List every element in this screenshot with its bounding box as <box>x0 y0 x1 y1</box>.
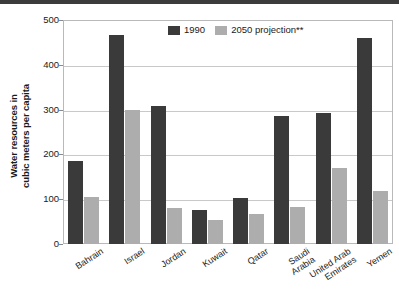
bar-series-2050 <box>332 168 347 244</box>
y-tick-label: 200 <box>19 149 59 159</box>
legend-swatch-icon-1990 <box>168 26 180 35</box>
bar-series-1990 <box>151 106 166 244</box>
bars-layer <box>63 20 393 244</box>
y-tick-label: 100 <box>19 194 59 204</box>
bar-series-1990 <box>357 38 372 244</box>
x-axis-labels: BahrainIsraelJordanKuwaitQatarSaudiArabi… <box>63 246 393 306</box>
y-tick-mark <box>59 244 63 245</box>
legend-label-1990: 1990 <box>184 25 205 35</box>
y-tick-label: 400 <box>19 60 59 70</box>
y-axis-title-line-2: cubic meters per capita <box>19 84 31 188</box>
bar-series-2050 <box>290 207 305 244</box>
bar-group <box>187 20 228 244</box>
y-axis-title-line-1: Water resources in <box>8 84 20 188</box>
bar-series-2050 <box>84 197 99 244</box>
page-top-rule <box>0 0 399 4</box>
bar-series-2050 <box>125 110 140 244</box>
y-tick-label: 500 <box>19 15 59 25</box>
chart-figure: Water resources in cubic meters per capi… <box>0 0 399 306</box>
bar-series-2050 <box>373 191 388 244</box>
y-tick-label: 0 <box>19 239 59 249</box>
legend-swatch-icon-2050 <box>215 26 227 35</box>
x-tick-label: Bahrain <box>69 246 105 274</box>
chart-legend: 1990 2050 projection** <box>168 25 304 35</box>
legend-label-2050-projection: 2050 projection** <box>231 25 303 35</box>
bar-series-2050 <box>208 220 223 244</box>
legend-item-2050-projection: 2050 projection** <box>215 25 303 35</box>
bar-series-1990 <box>68 161 83 244</box>
bar-series-2050 <box>249 214 264 244</box>
bar-group <box>269 20 310 244</box>
bar-series-2050 <box>167 208 182 244</box>
bar-series-1990 <box>192 210 207 244</box>
bar-series-1990 <box>274 116 289 244</box>
bar-group <box>352 20 393 244</box>
bar-series-1990 <box>109 35 124 244</box>
legend-item-1990: 1990 <box>168 25 205 35</box>
x-tick-label-line: Bahrain <box>69 246 105 274</box>
bar-group <box>311 20 352 244</box>
bar-series-1990 <box>316 113 331 244</box>
bar-group <box>63 20 104 244</box>
bar-group <box>146 20 187 244</box>
bar-group <box>104 20 145 244</box>
y-tick-label: 300 <box>19 105 59 115</box>
bar-group <box>228 20 269 244</box>
bar-series-1990 <box>233 198 248 244</box>
